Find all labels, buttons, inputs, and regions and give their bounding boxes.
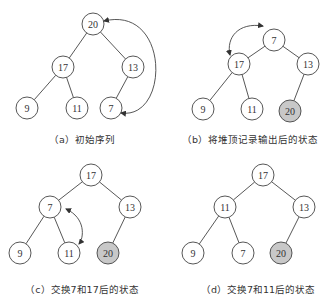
svg-text:11: 11 [64, 248, 74, 259]
heap-node: 11 [58, 242, 80, 264]
svg-text:9: 9 [18, 248, 23, 259]
tree-edge [59, 182, 83, 200]
svg-text:20: 20 [103, 248, 113, 259]
caption-a: （a）初始序列 [49, 132, 115, 146]
svg-text:17: 17 [234, 59, 244, 70]
heap-node: 11 [66, 97, 88, 119]
panel-b-after-output-top: 7171391120 [192, 25, 319, 122]
heap-sort-diagram: 2017139117 7171391120 1771391120 1711139… [0, 0, 327, 299]
svg-text:7: 7 [48, 202, 53, 213]
tree-edge [199, 216, 218, 244]
heap-node: 9 [192, 98, 214, 120]
tree-edge [294, 74, 304, 100]
heap-node: 13 [122, 56, 144, 78]
svg-text:17: 17 [58, 62, 68, 73]
svg-text:7: 7 [241, 248, 246, 259]
heap-node: 9 [9, 242, 31, 264]
svg-text:13: 13 [299, 202, 309, 213]
svg-text:11: 11 [247, 104, 257, 115]
heap-node: 17 [80, 164, 102, 186]
tree-edge [34, 75, 55, 99]
output-node: 20 [270, 242, 292, 264]
tree-edge [272, 182, 296, 200]
tree-edge [100, 32, 125, 59]
svg-text:9: 9 [191, 248, 196, 259]
tree-edge [242, 75, 249, 99]
tree-edge [69, 33, 86, 58]
caption-d: （d）交换7和11后的状态 [201, 282, 315, 296]
swap-arrow [66, 209, 82, 244]
tree-edge [116, 77, 128, 99]
heap-node: 13 [119, 196, 141, 218]
tree-edge [113, 217, 126, 243]
tree-edge [67, 77, 74, 97]
svg-text:7: 7 [109, 103, 114, 114]
svg-text:13: 13 [128, 62, 138, 73]
heap-node: 13 [297, 53, 319, 75]
svg-text:17: 17 [258, 170, 268, 181]
svg-text:13: 13 [303, 59, 313, 70]
tree-edge [210, 73, 232, 101]
svg-text:13: 13 [125, 202, 135, 213]
tree-edge [248, 46, 265, 58]
panel-a-initial-sequence: 2017139117 [16, 13, 156, 119]
heap-node: 7 [100, 97, 122, 119]
output-node: 20 [279, 100, 301, 122]
heap-node: 17 [252, 164, 274, 186]
output-node: 20 [97, 242, 119, 264]
heap-node: 7 [39, 196, 61, 218]
svg-text:20: 20 [276, 248, 286, 259]
heap-node: 11 [214, 196, 236, 218]
heap-node: 7 [263, 29, 285, 51]
heap-node: 17 [52, 56, 74, 78]
svg-text:11: 11 [72, 103, 82, 114]
heap-node: 9 [182, 242, 204, 264]
heap-node: 17 [228, 53, 250, 75]
caption-c: （c）交换7和17后的状态 [25, 282, 138, 296]
heap-node: 7 [232, 242, 254, 264]
tree-edge [100, 182, 122, 200]
heap-node: 9 [16, 97, 38, 119]
tree-edge [26, 216, 44, 244]
heap-node: 11 [241, 98, 263, 120]
svg-text:11: 11 [220, 202, 230, 213]
tree-edge [283, 46, 299, 57]
panel-d-after-swap-7-11: 1711139720 [182, 164, 315, 264]
tree-edge [54, 217, 65, 243]
svg-text:9: 9 [201, 104, 206, 115]
svg-text:17: 17 [86, 170, 96, 181]
heap-node: 20 [82, 13, 104, 35]
heap-node: 13 [293, 196, 315, 218]
tree-edge [229, 217, 239, 243]
caption-b: （b）将堆顶记录输出后的状态 [182, 132, 318, 146]
tree-edge [286, 217, 299, 243]
svg-text:20: 20 [88, 19, 98, 30]
svg-text:9: 9 [25, 103, 30, 114]
svg-text:7: 7 [272, 35, 277, 46]
tree-edge [233, 182, 254, 200]
panel-c-after-swap-7-17: 1771391120 [9, 164, 141, 264]
svg-text:20: 20 [285, 106, 295, 117]
